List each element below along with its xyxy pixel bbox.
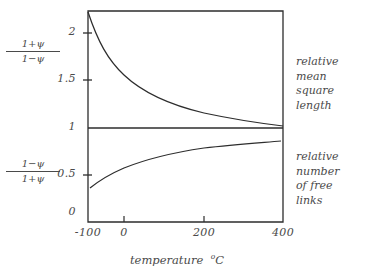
caption-line: mean [296,70,369,85]
caption-lower-curve: relative number of free links [296,150,369,208]
caption-line: relative [296,55,369,70]
caption-line: length [296,99,369,114]
y-tick-label-upper-1_5: 1.5 [42,72,76,85]
caption-line: square [296,84,369,99]
fraction-numerator: 1−ψ [6,158,60,171]
x-axis-title: temperature oC [130,252,224,267]
caption-line: of free [296,179,369,194]
curve-relative-mean-square-length [88,12,283,126]
x-tick-label-200: 200 [181,226,227,239]
x-axis-ticks [124,216,204,222]
plot-frame [88,11,283,222]
curve-relative-number-free-links [90,141,281,188]
fraction-denominator: 1+ψ [6,171,60,185]
x-tick-label-0: 0 [101,226,147,239]
fraction-numerator: 1+ψ [6,38,60,51]
fraction-denominator: 1−ψ [6,51,60,65]
y-axis-label-lower-fraction: 1−ψ 1+ψ [6,158,60,184]
figure-root: 2 1.5 1 0.5 0 1+ψ 1−ψ 1−ψ 1+ψ -100 0 200… [0,0,369,280]
caption-line: number [296,165,369,180]
y-tick-label-lower-0: 0 [42,205,76,218]
x-tick-label-400: 400 [260,226,306,239]
caption-upper-curve: relative mean square length [296,55,369,113]
y-tick-label-upper-1: 1 [42,120,76,133]
caption-line: links [296,194,369,209]
caption-line: relative [296,150,369,165]
celsius-letter: C [215,253,224,267]
y-tick-label-upper-2: 2 [42,25,76,38]
y-axis-label-upper-fraction: 1+ψ 1−ψ [6,38,60,64]
x-axis-title-text: temperature [130,253,203,267]
